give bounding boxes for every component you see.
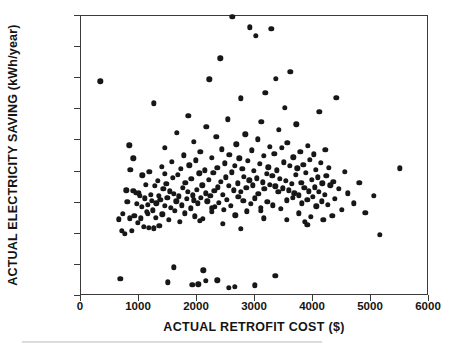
data-point xyxy=(255,136,260,141)
data-point xyxy=(222,161,227,166)
data-point xyxy=(204,124,209,129)
data-point xyxy=(203,278,208,283)
data-point xyxy=(176,194,181,199)
data-point xyxy=(227,152,232,157)
data-point xyxy=(208,193,213,198)
data-point xyxy=(213,134,218,139)
data-point xyxy=(251,168,256,173)
data-point xyxy=(309,177,314,182)
data-point xyxy=(206,77,211,82)
data-point xyxy=(151,100,156,105)
data-point xyxy=(283,178,288,183)
data-point xyxy=(158,197,163,202)
data-point xyxy=(293,122,298,127)
data-point xyxy=(290,195,295,200)
data-point xyxy=(147,169,152,174)
data-point xyxy=(220,221,225,226)
data-point xyxy=(266,164,271,169)
data-point xyxy=(181,153,186,158)
data-point xyxy=(200,183,205,188)
data-point xyxy=(336,186,341,191)
data-point xyxy=(159,164,164,169)
y-axis-title: ACTUAL ELECTRICITY SAVING (kWh/year) xyxy=(0,0,26,310)
data-point xyxy=(216,200,221,205)
data-point xyxy=(351,201,356,206)
data-point xyxy=(250,183,255,188)
data-point xyxy=(161,186,166,191)
data-point xyxy=(215,165,220,170)
data-point xyxy=(122,231,127,236)
data-point xyxy=(293,172,298,177)
data-point xyxy=(129,228,134,233)
data-point xyxy=(273,184,278,189)
data-point xyxy=(357,180,362,185)
data-point xyxy=(305,143,310,148)
data-point xyxy=(270,173,275,178)
x-tick-label: 5000 xyxy=(357,300,383,312)
data-point xyxy=(260,179,265,184)
data-point xyxy=(186,113,191,118)
data-point xyxy=(142,196,147,201)
data-point xyxy=(130,156,135,161)
data-point xyxy=(245,158,250,163)
data-point xyxy=(143,182,148,187)
data-point xyxy=(289,181,294,186)
data-point xyxy=(138,216,143,221)
data-point xyxy=(285,140,290,145)
data-point xyxy=(215,278,220,283)
data-point xyxy=(311,151,316,156)
data-point xyxy=(326,165,331,170)
data-point xyxy=(300,162,305,167)
data-point xyxy=(221,207,226,212)
data-point xyxy=(284,217,289,222)
data-point xyxy=(262,186,267,191)
data-point xyxy=(298,149,303,154)
x-axis-title: ACTUAL RETROFIT COST ($) xyxy=(80,320,428,334)
data-point xyxy=(276,127,281,132)
data-point xyxy=(304,197,309,202)
data-point xyxy=(223,174,228,179)
data-point xyxy=(287,163,292,168)
data-point xyxy=(377,232,382,237)
data-point xyxy=(191,139,196,144)
data-point xyxy=(202,168,207,173)
data-point xyxy=(128,167,133,172)
data-point xyxy=(240,166,245,171)
data-point xyxy=(193,158,198,163)
data-point xyxy=(342,169,347,174)
scatter-plot-figure: ACTUAL ELECTRICITY SAVING (kWh/year) -50… xyxy=(0,0,455,346)
x-tick-label: 6000 xyxy=(415,300,441,312)
data-point xyxy=(286,188,291,193)
data-point xyxy=(179,202,184,207)
scan-artifact xyxy=(22,341,322,343)
data-point xyxy=(232,163,237,168)
data-point xyxy=(224,197,229,202)
data-point xyxy=(188,206,193,211)
data-point xyxy=(116,217,121,222)
data-point xyxy=(187,163,192,168)
data-point xyxy=(219,146,224,151)
data-point xyxy=(270,202,275,207)
data-point xyxy=(238,95,243,100)
data-point xyxy=(284,197,289,202)
data-point xyxy=(244,185,249,190)
x-tick-label: 0 xyxy=(77,300,83,312)
data-point xyxy=(235,181,240,186)
data-point xyxy=(152,183,157,188)
data-point xyxy=(279,145,284,150)
data-point xyxy=(249,148,254,153)
data-point xyxy=(166,217,171,222)
data-point xyxy=(242,132,247,137)
data-point xyxy=(271,151,276,156)
data-point xyxy=(274,168,279,173)
data-point xyxy=(397,166,402,171)
data-point xyxy=(247,24,252,29)
data-point xyxy=(278,206,283,211)
data-point xyxy=(306,189,311,194)
data-point xyxy=(184,196,189,201)
data-point xyxy=(281,160,286,165)
data-point xyxy=(331,179,336,184)
data-point xyxy=(252,196,257,201)
x-tick-label: 3000 xyxy=(241,300,267,312)
data-point xyxy=(277,176,282,181)
